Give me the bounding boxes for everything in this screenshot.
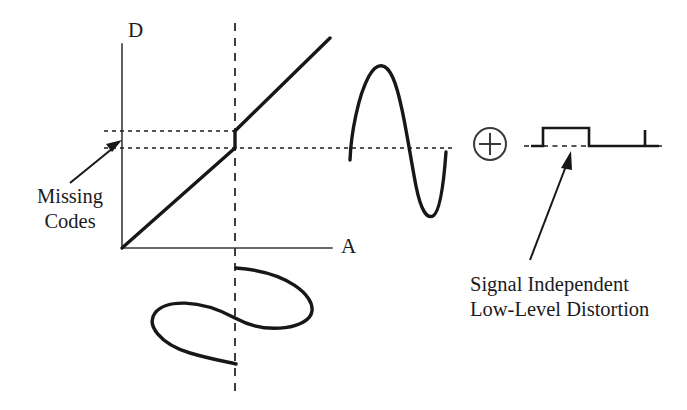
missing-codes-arrow-head bbox=[106, 140, 122, 152]
missing-codes-line-2: Codes bbox=[14, 209, 126, 234]
transfer-curve-lower-segment bbox=[122, 148, 235, 248]
transfer-curve-group bbox=[122, 38, 330, 248]
input-sine-waveform bbox=[152, 268, 312, 364]
signal-distortion-arrow-head bbox=[561, 151, 572, 170]
axis-group bbox=[122, 44, 332, 248]
summation-operator bbox=[474, 128, 506, 160]
signal-distortion-line-1: Signal Independent bbox=[470, 272, 649, 297]
y-axis-label: D bbox=[128, 20, 143, 41]
output-sine-waveform bbox=[350, 66, 446, 217]
missing-codes-arrow-shaft bbox=[70, 148, 113, 183]
distortion-square-path bbox=[531, 128, 659, 146]
missing-codes-annotation: Missing Codes bbox=[14, 184, 126, 234]
missing-codes-line-1: Missing bbox=[14, 184, 126, 209]
signal-distortion-arrow-shaft bbox=[530, 166, 566, 260]
diagram-canvas: D A Missing Codes Signal Independent Low… bbox=[0, 0, 687, 410]
signal-distortion-arrow bbox=[530, 151, 572, 260]
output-sine-path bbox=[350, 66, 446, 217]
x-axis-label: A bbox=[341, 236, 356, 257]
signal-distortion-annotation: Signal Independent Low-Level Distortion bbox=[470, 272, 649, 322]
reference-lines-group bbox=[104, 23, 453, 395]
signal-distortion-line-2: Low-Level Distortion bbox=[470, 297, 649, 322]
input-sine-path bbox=[152, 268, 312, 364]
transfer-curve-upper-segment bbox=[235, 38, 330, 131]
distortion-square-waveform bbox=[524, 128, 666, 146]
missing-codes-arrow bbox=[70, 140, 122, 183]
